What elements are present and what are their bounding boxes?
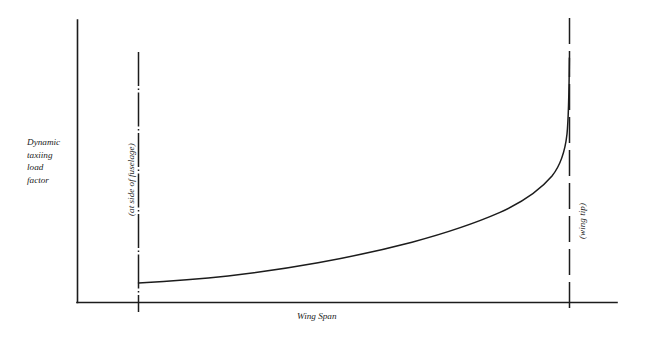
x-axis-label: Wing Span [297,310,337,322]
chart-figure: Dynamic taxiing load factor Wing Span (a… [0,0,649,337]
annotation-label-fuselage: (at side of fuselage) [126,143,136,216]
y-axis-label-line-3: load [27,161,60,174]
y-axis-label-line-4: factor [27,174,60,187]
y-axis-label-line-2: taxiing [27,149,60,162]
annotation-label-wingtip: (wing tip) [577,203,587,239]
data-curve [139,58,570,283]
y-axis-label-line-1: Dynamic [27,136,60,149]
chart-plot-area [0,0,649,337]
y-axis-label: Dynamic taxiing load factor [27,136,60,187]
